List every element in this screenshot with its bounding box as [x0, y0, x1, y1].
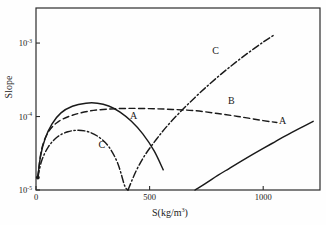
- tick-labels: 0500100010-310-410-5: [19, 38, 272, 202]
- y-axis-title: Slope: [3, 75, 14, 98]
- curve-c-rising: [128, 35, 275, 190]
- data-curves: [36, 35, 313, 190]
- curve-label-a-hump: A: [130, 110, 138, 121]
- x-tick-label-1: 500: [143, 192, 156, 202]
- x-tick-label-0: 0: [34, 192, 38, 202]
- curve-origin-marker: [36, 176, 40, 180]
- plot-frame: [36, 8, 320, 190]
- x-axis-title: S(kg/m3): [152, 206, 188, 219]
- y-tick-label-0: 10-3: [19, 38, 32, 48]
- curve-label-a-right: A: [279, 115, 287, 126]
- curve-label-c-lower: C: [99, 139, 106, 150]
- curve-c-hump: [38, 130, 128, 190]
- y-tick-label-1: 10-4: [19, 111, 32, 121]
- curve-label-c-upper: C: [212, 45, 219, 56]
- figure-container: 0500100010-310-410-5 CBAAC S(kg/m3)Slope: [0, 0, 326, 225]
- chart-plot: 0500100010-310-410-5 CBAAC S(kg/m3)Slope: [0, 0, 326, 225]
- curve-a-rising: [195, 121, 313, 190]
- curve-label-b: B: [228, 95, 235, 106]
- curve-b: [38, 108, 277, 177]
- curve-annotations: CBAAC: [99, 45, 287, 151]
- axis-titles: S(kg/m3)Slope: [3, 75, 188, 219]
- y-tick-label-2: 10-5: [19, 185, 32, 195]
- x-tick-label-2: 1000: [255, 192, 272, 202]
- plot-frame-rect: [36, 8, 320, 190]
